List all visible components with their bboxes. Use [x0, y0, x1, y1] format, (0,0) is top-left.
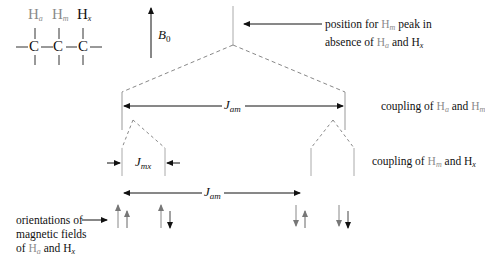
position-annotation: position for Hm peak in absence of Ha an… [325, 17, 432, 53]
coupling-am-annotation: coupling of Ha and Hm [381, 99, 485, 117]
hydrogen-x: Hx [77, 6, 91, 23]
carbon-3: C [78, 38, 88, 55]
coupling-mx-annotation: coupling of Hm and Hx [372, 154, 476, 172]
carbon-1: C [29, 38, 39, 55]
orientation-annotation: orientations of magnetic fields of Ha an… [16, 213, 87, 259]
hydrogen-a: Ha [28, 6, 43, 23]
jam2-label: Jam [204, 185, 221, 203]
hydrogen-m: Hm [52, 6, 69, 23]
carbon-2: C [53, 38, 63, 55]
final-lines [122, 148, 354, 176]
b0-label: B0 [158, 28, 170, 46]
second-split-dashes [122, 120, 354, 148]
jmx-label: Jmx [135, 155, 151, 173]
jam-label: Jam [224, 98, 241, 116]
spin-arrows [118, 205, 348, 228]
first-split-dashes [122, 45, 345, 92]
